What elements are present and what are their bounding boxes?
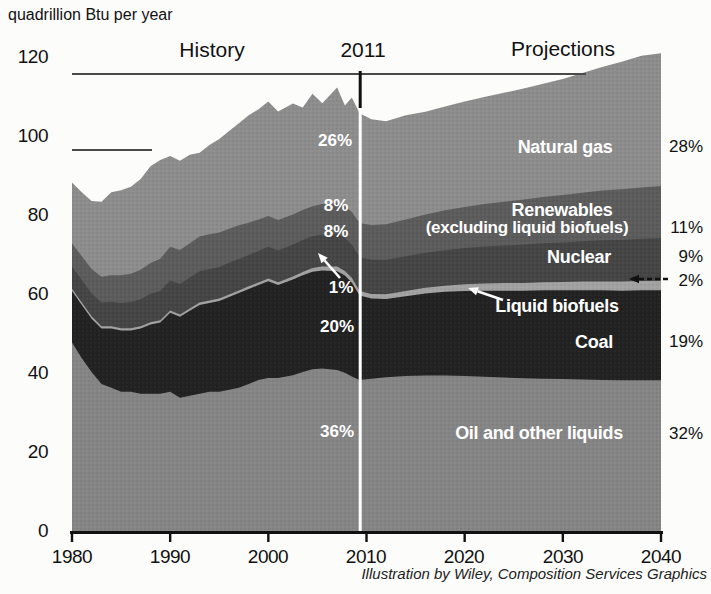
x-axis-tick — [365, 531, 367, 542]
series-label-renewables: Renewables — [511, 201, 612, 220]
projection-share-liquid-biofuels: 2% — [657, 272, 703, 290]
x-tick-1980: 1980 — [52, 547, 92, 567]
y-tick-20: 20 — [2, 442, 48, 462]
divider-line — [359, 104, 362, 533]
y-tick-120: 120 — [2, 47, 48, 67]
series-label-liquid-biofuels: Liquid biofuels — [495, 297, 619, 316]
y-tick-60: 60 — [2, 284, 48, 304]
x-axis-tick — [169, 531, 171, 542]
x-axis-tick — [71, 531, 73, 542]
history-share-liquid-biofuels: 1% — [329, 279, 354, 297]
series-label-oil: Oil and other liquids — [455, 424, 623, 443]
y-tick-80: 80 — [2, 205, 48, 225]
projection-share-renewables: 11% — [657, 219, 703, 237]
divider-tick — [359, 71, 362, 108]
y-tick-100: 100 — [2, 126, 48, 146]
projection-share-oil: 32% — [657, 425, 703, 443]
x-axis-tick — [267, 531, 269, 542]
y-tick-0: 0 — [2, 521, 48, 541]
history-share-renewables: 8% — [324, 197, 349, 215]
y-tick-40: 40 — [2, 363, 48, 383]
x-tick-1990: 1990 — [150, 547, 190, 567]
x-axis-tick — [660, 531, 662, 542]
x-axis-tick — [463, 531, 465, 542]
illustration-credit: Illustration by Wiley, Composition Servi… — [361, 566, 707, 582]
x-tick-2020: 2020 — [444, 547, 484, 567]
divider-year-label: 2011 — [340, 39, 385, 61]
x-axis-tick — [562, 531, 564, 542]
x-tick-2040: 2040 — [641, 547, 681, 567]
energy-consumption-chart: quadrillion Btu per year 120 100 80 60 4… — [0, 0, 711, 594]
projection-share-nuclear: 9% — [657, 248, 703, 266]
series-label-nuclear: Nuclear — [547, 248, 611, 267]
history-share-nuclear: 8% — [324, 223, 349, 241]
series-label-coal: Coal — [575, 333, 613, 352]
x-tick-2000: 2000 — [248, 547, 288, 567]
projection-share-natural-gas: 28% — [657, 138, 703, 156]
projection-share-coal: 19% — [657, 333, 703, 351]
projections-header: Projections — [511, 38, 615, 60]
series-label-renewables-note: (excluding liquid biofuels) — [426, 219, 629, 237]
x-tick-2010: 2010 — [346, 547, 386, 567]
chart-title: quadrillion Btu per year — [8, 7, 173, 24]
history-share-oil: 36% — [320, 423, 354, 441]
history-share-coal: 20% — [320, 318, 354, 336]
series-label-natural-gas: Natural gas — [518, 138, 613, 157]
history-share-natural-gas: 26% — [318, 132, 352, 150]
x-tick-2030: 2030 — [543, 547, 583, 567]
history-header: History — [179, 39, 244, 61]
